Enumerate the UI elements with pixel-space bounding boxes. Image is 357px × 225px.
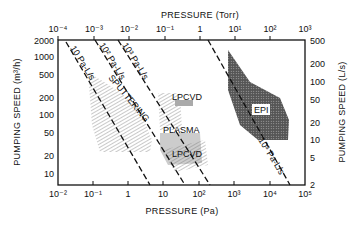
label-line1: 10 Pa-L/s (68, 44, 97, 82)
svg-text:2: 2 (310, 180, 315, 190)
svg-text:200: 200 (310, 59, 325, 69)
label-lpcvd-upper: LPCVD (172, 92, 203, 102)
pumping-speed-chart: 10 Pa-L/s 10² Pa-L/s 10³ Pa-L/s 10³ Pa-L… (0, 0, 357, 225)
svg-text:10²: 10² (192, 189, 205, 199)
svg-text:1: 1 (125, 189, 130, 199)
svg-text:100: 100 (39, 110, 54, 120)
svg-text:10: 10 (44, 169, 54, 179)
svg-text:1: 1 (197, 24, 202, 34)
left-axis-title: PUMPING SPEED (m³/h) (12, 58, 22, 166)
svg-text:50: 50 (310, 95, 320, 105)
svg-text:20: 20 (44, 151, 54, 161)
svg-text:100: 100 (310, 77, 325, 87)
svg-text:10⁻³: 10⁻³ (85, 24, 103, 34)
svg-text:10⁻²: 10⁻² (49, 189, 67, 199)
svg-text:10: 10 (310, 135, 320, 145)
svg-text:500: 500 (310, 36, 325, 46)
svg-text:20: 20 (310, 118, 320, 128)
svg-text:10³: 10³ (298, 24, 311, 34)
label-line4: 10³ Pa-L/s (256, 136, 287, 177)
right-axis-title: PUMPING SPEED (L/s) (337, 61, 347, 162)
chart-svg: 10 Pa-L/s 10² Pa-L/s 10³ Pa-L/s 10³ Pa-L… (0, 0, 357, 225)
svg-text:10⁴: 10⁴ (263, 189, 277, 199)
svg-text:10⁻⁴: 10⁻⁴ (49, 24, 68, 34)
svg-text:10²: 10² (263, 24, 276, 34)
label-plasma: PLASMA (163, 125, 200, 135)
svg-text:1000: 1000 (34, 52, 54, 62)
svg-text:10⁵: 10⁵ (298, 189, 312, 199)
svg-text:10⁻²: 10⁻² (120, 24, 138, 34)
region-epi (228, 50, 289, 140)
svg-text:500: 500 (39, 70, 54, 80)
svg-text:10¹: 10¹ (228, 24, 241, 34)
svg-text:10³: 10³ (227, 189, 240, 199)
label-lpcvd-lower: LPCVD (172, 149, 203, 159)
svg-text:10⁻¹: 10⁻¹ (156, 24, 174, 34)
svg-text:10: 10 (158, 189, 168, 199)
bottom-axis-title: PRESSURE (Pa) (146, 206, 219, 216)
svg-text:2000: 2000 (34, 36, 54, 46)
svg-text:10⁻¹: 10⁻¹ (84, 189, 102, 199)
top-axis-title: PRESSURE (Torr) (161, 10, 239, 20)
svg-text:200: 200 (39, 93, 54, 103)
label-epi: EPI (254, 105, 269, 115)
svg-text:50: 50 (44, 128, 54, 138)
svg-text:5: 5 (310, 153, 315, 163)
